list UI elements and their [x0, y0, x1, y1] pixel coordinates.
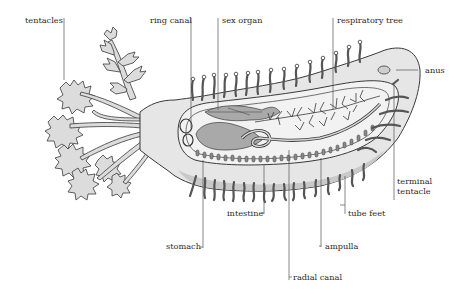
label-respiratory-tree: respiratory tree — [337, 15, 403, 25]
label-tube-feet: tube feet — [348, 208, 385, 218]
anus-drawing — [378, 66, 390, 74]
label-radial-canal: radial canal — [293, 272, 342, 282]
sea-cucumber-illustration — [0, 0, 463, 299]
label-ring-canal: ring canal — [150, 15, 192, 25]
label-terminal-tentacle: terminal tentacle — [397, 176, 432, 196]
label-intestine: intestine — [227, 208, 263, 218]
label-tentacles: tentacles — [25, 15, 63, 25]
sea-cucumber-diagram: tentacles ring canal sex organ respirato… — [0, 0, 463, 299]
tentacles-drawing — [45, 27, 155, 200]
label-sex-organ: sex organ — [222, 15, 263, 25]
label-stomach: stomach — [166, 241, 201, 251]
label-ampulla: ampulla — [325, 241, 358, 251]
label-anus: anus — [425, 65, 445, 75]
